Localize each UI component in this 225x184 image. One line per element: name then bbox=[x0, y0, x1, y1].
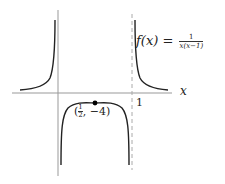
vertex-point-label: (12, −4) bbox=[74, 104, 110, 119]
point-rest: , −4) bbox=[83, 105, 111, 118]
function-fraction: 1x(x−1) bbox=[179, 33, 203, 50]
x-axis-label: x bbox=[180, 84, 187, 98]
plot-canvas bbox=[0, 0, 225, 184]
right-branch-curve bbox=[135, 20, 168, 90]
function-numerator: 1 bbox=[179, 33, 203, 42]
function-denominator: x(x−1) bbox=[179, 42, 203, 50]
function-label: f(x) = 1x(x−1) bbox=[136, 33, 203, 50]
left-branch-curve bbox=[20, 20, 55, 90]
function-lhs: f(x) = bbox=[136, 33, 177, 48]
function-graph: f(x) = 1x(x−1) x 1 (12, −4) bbox=[0, 0, 225, 184]
x-tick-1: 1 bbox=[136, 96, 143, 109]
